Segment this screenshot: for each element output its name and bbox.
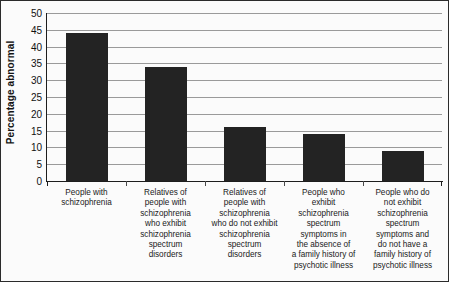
category-label-line: psychotic illness — [285, 261, 362, 271]
category-label: People who donot exhibitschizophreniaspe… — [363, 188, 442, 280]
category-label-line: spectrum — [206, 240, 283, 250]
category-label-line: psychotic illness — [364, 261, 441, 271]
y-axis-title-text: Percentage abnormal — [6, 40, 17, 144]
category-labels: People withschizophreniaRelatives ofpeop… — [47, 188, 442, 280]
gridline — [47, 13, 442, 14]
category-label-line: who exhibit — [127, 219, 204, 229]
category-label-line: People who — [285, 188, 362, 198]
x-axis-line — [46, 181, 443, 182]
y-axis-tick-label: 10 — [31, 142, 42, 153]
category-label-line: People with — [48, 188, 125, 198]
category-label-line: who do not exhibit — [206, 219, 283, 229]
category-label-line: disorders — [206, 250, 283, 260]
category-label-line: exhibit — [285, 198, 362, 208]
category-label-line: spectrum — [127, 240, 204, 250]
y-axis-tick-label: 0 — [36, 176, 42, 187]
y-axis-tick-label: 15 — [31, 125, 42, 136]
x-axis-tick — [126, 181, 127, 186]
category-label-line: schizophrenia — [206, 230, 283, 240]
category-label-line: a family history of — [285, 250, 362, 260]
y-axis-tick-label: 40 — [31, 41, 42, 52]
category-label-line: schizophrenia — [127, 209, 204, 219]
category-label-line: symptoms in — [285, 230, 362, 240]
category-label-line: schizophrenia — [364, 209, 441, 219]
y-axis-tick-label: 5 — [36, 159, 42, 170]
x-axis-tick — [363, 181, 364, 186]
bar — [382, 151, 424, 181]
plot-area: 50454035302520151050 — [47, 13, 442, 181]
bar — [303, 134, 345, 181]
category-label-line: people with — [206, 198, 283, 208]
gridline — [47, 30, 442, 31]
category-label-line: people with — [127, 198, 204, 208]
y-axis-tick-label: 20 — [31, 108, 42, 119]
bar — [224, 127, 266, 181]
category-label-line: not exhibit — [364, 198, 441, 208]
category-label: Relatives ofpeople withschizophreniawho … — [126, 188, 205, 280]
category-label-line: spectrum — [285, 219, 362, 229]
category-label-line: People who do — [364, 188, 441, 198]
category-label-line: the absence of — [285, 240, 362, 250]
category-label-line: Relatives of — [206, 188, 283, 198]
y-axis-tick-label: 25 — [31, 92, 42, 103]
x-axis-end-cap — [441, 181, 442, 186]
category-label-line: do not have a — [364, 240, 441, 250]
y-axis-title: Percentage abnormal — [3, 1, 19, 183]
category-label: People withschizophrenia — [47, 188, 126, 280]
category-label-line: disorders — [127, 250, 204, 260]
bar — [145, 67, 187, 181]
category-label: Relatives ofpeople withschizophreniawho … — [205, 188, 284, 280]
category-label-line: schizophrenia — [206, 209, 283, 219]
x-axis-tick — [284, 181, 285, 186]
category-label-line: Relatives of — [127, 188, 204, 198]
y-axis-tick-label: 45 — [31, 24, 42, 35]
y-axis-tick-label: 30 — [31, 75, 42, 86]
x-axis-tick — [205, 181, 206, 186]
bar — [66, 33, 108, 181]
x-axis-end-cap — [47, 181, 48, 186]
category-label-line: schizophrenia — [285, 209, 362, 219]
category-label-line: schizophrenia — [48, 198, 125, 208]
category-label-line: family history of — [364, 250, 441, 260]
bar-chart-figure: Percentage abnormal 50454035302520151050… — [0, 0, 449, 282]
y-axis-tick-label: 35 — [31, 58, 42, 69]
category-label-line: spectrum — [364, 219, 441, 229]
category-label-line: schizophrenia — [127, 230, 204, 240]
category-label: People whoexhibitschizophreniaspectrumsy… — [284, 188, 363, 280]
y-axis-tick-label: 50 — [31, 8, 42, 19]
category-label-line: symptoms and — [364, 230, 441, 240]
